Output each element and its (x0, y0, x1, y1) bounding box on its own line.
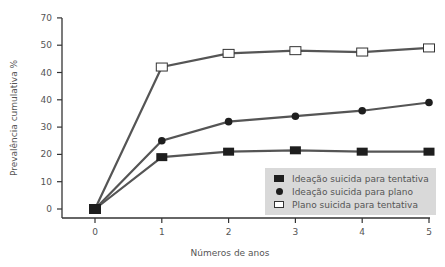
x-tick-label: 3 (293, 227, 299, 237)
y-tick-label: 10 (41, 177, 53, 187)
filled-circle-marker-icon (292, 112, 300, 120)
x-tick-label: 1 (159, 227, 165, 237)
legend: Ideação suicida para tentativa Ideação s… (265, 168, 436, 215)
y-tick-label: 30 (41, 122, 53, 132)
filled-square-marker-icon (223, 148, 234, 156)
filled-circle-marker-icon (225, 118, 233, 126)
legend-label: Ideação suicida para tentativa (292, 174, 429, 184)
open-square-marker-icon (273, 200, 285, 210)
y-tick-label: 40 (41, 95, 53, 105)
y-ticks: 010203040405070 (41, 13, 62, 214)
filled-square-marker-icon (156, 153, 167, 161)
y-tick-label: 50 (41, 40, 53, 50)
legend-item-ideacao-plano: Ideação suicida para plano (273, 185, 436, 198)
filled-circle-marker-icon (358, 107, 366, 115)
y-tick-label: 70 (41, 13, 53, 23)
open-square-marker-icon (156, 63, 167, 71)
legend-item-plano-tentativa: Plano suicida para tentativa (273, 198, 436, 211)
filled-square-marker-icon (273, 174, 285, 184)
open-square-marker-icon (357, 48, 368, 56)
y-tick-label: 0 (46, 204, 52, 214)
y-tick-label: 20 (41, 149, 53, 159)
x-ticks: 012345 (92, 218, 432, 237)
legend-item-ideacao-tentativa: Ideação suicida para tentativa (273, 172, 436, 185)
open-square-marker-icon (223, 49, 234, 57)
filled-circle-marker-icon (425, 99, 433, 107)
x-tick-label: 0 (92, 227, 98, 237)
x-axis-title: Números de anos (191, 248, 270, 258)
filled-square-marker-icon (424, 148, 435, 156)
filled-circle-marker-icon (273, 187, 285, 197)
x-tick-label: 5 (426, 227, 432, 237)
x-tick-label: 4 (359, 227, 365, 237)
legend-label: Plano suicida para tentativa (292, 200, 418, 210)
open-square-marker-icon (424, 44, 435, 52)
legend-label: Ideação suicida para plano (292, 187, 413, 197)
filled-circle-marker-icon (158, 137, 166, 145)
filled-square-marker-icon (290, 146, 301, 154)
y-axis-title: Prevalência cumulativa % (9, 59, 19, 176)
open-square-marker-icon (290, 47, 301, 55)
y-tick-label: 40 (41, 68, 53, 78)
filled-square-marker-icon (89, 204, 101, 214)
line-chart: 010203040405070 012345 Números de anos P… (0, 0, 445, 267)
filled-square-marker-icon (357, 148, 368, 156)
x-tick-label: 2 (226, 227, 232, 237)
